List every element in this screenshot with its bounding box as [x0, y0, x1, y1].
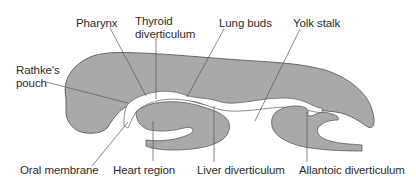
label-heart-region: Heart region [113, 164, 175, 176]
label-thyroid-line2: diverticulum [135, 28, 195, 40]
label-thyroid-line1: Thyroid [135, 15, 173, 27]
label-allantoic-diverticulum: Allantoic diverticulum [299, 164, 405, 176]
label-rathkes-line1: Rathke's [16, 64, 60, 76]
label-oral-membrane: Oral membrane [20, 164, 99, 176]
label-rathkes-line2: pouch [16, 77, 47, 89]
label-pharynx: Pharynx [76, 17, 118, 29]
label-yolk-stalk: Yolk stalk [293, 17, 340, 29]
label-liver-diverticulum: Liver diverticulum [197, 164, 285, 176]
heart-region-tissue [136, 102, 229, 150]
embryo-illustration [0, 0, 416, 188]
label-lung-buds: Lung buds [219, 17, 272, 29]
embryo-diagram: Pharynx Thyroid diverticulum Lung buds Y… [0, 0, 416, 188]
